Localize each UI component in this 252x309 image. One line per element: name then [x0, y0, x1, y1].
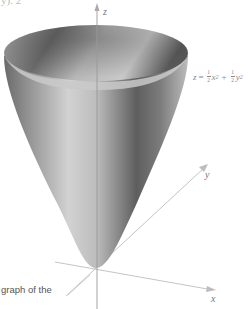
eq-frac-1-num: 1	[207, 70, 210, 76]
eq-frac-2-den: 2	[231, 78, 234, 84]
caption-pointer-line	[68, 275, 90, 295]
paraboloid-graphic	[0, 0, 252, 309]
y-axis-label: y	[205, 170, 209, 180]
eq-frac-1-den: 2	[207, 78, 210, 84]
eq-lhs: z	[193, 72, 197, 82]
eq-term1-exp: 2	[216, 74, 219, 80]
top-text-fragment: y). 2	[1, 0, 21, 6]
eq-frac-2-num: 1	[231, 70, 234, 76]
eq-term2-exp: 2	[240, 74, 243, 80]
eq-op: +	[222, 72, 227, 82]
eq-frac-2: 1 2	[231, 70, 235, 83]
eq-frac-1: 1 2	[207, 70, 211, 83]
x-axis-arrow	[206, 286, 216, 292]
z-axis-arrow	[95, 3, 100, 11]
equation-label: z = 1 2 x2 + 1 2 y2	[193, 70, 243, 83]
paraboloid-figure: y). 2 z y x z = 1 2 x2 + 1 2 y2 graph of…	[0, 0, 252, 309]
z-axis-label: z	[103, 7, 107, 17]
caption-fragment: graph of the	[1, 284, 52, 295]
x-axis-label: x	[211, 294, 215, 304]
